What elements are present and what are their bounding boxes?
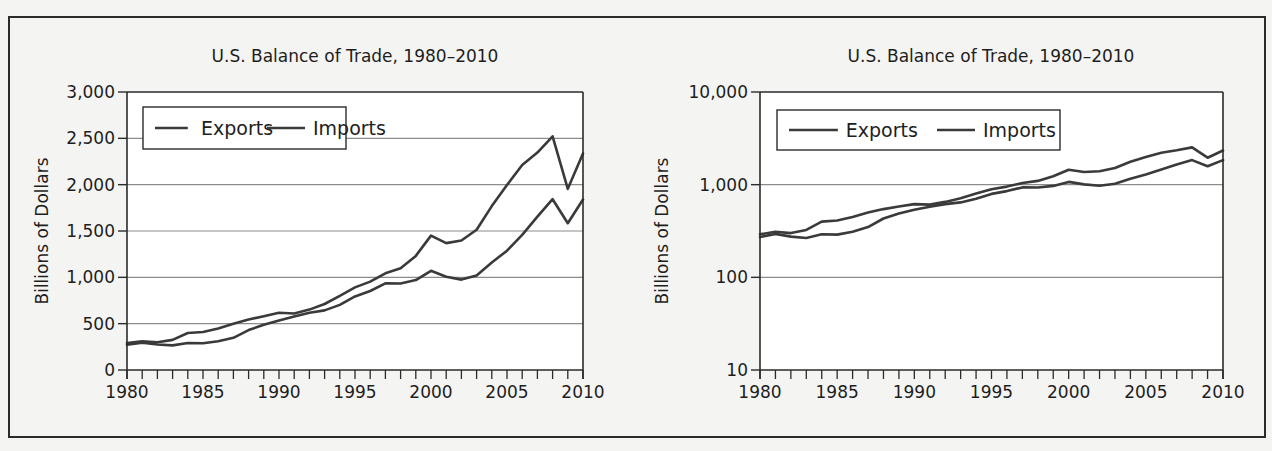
y-tick-labels: 101001,00010,000 xyxy=(689,82,748,380)
chart-title: U.S. Balance of Trade, 1980–2010 xyxy=(848,46,1135,66)
y-axis-title: Billions of Dollars xyxy=(32,157,52,304)
x-tick-label: 1995 xyxy=(970,382,1013,402)
legend-imports: Imports xyxy=(313,117,386,139)
x-tick-labels: 1980198519901995200020052010 xyxy=(738,382,1244,402)
x-tick-label: 2005 xyxy=(1124,382,1167,402)
chart-title: U.S. Balance of Trade, 1980–2010 xyxy=(212,46,499,66)
x-tick-label: 1990 xyxy=(893,382,936,402)
x-tick-label: 1995 xyxy=(333,382,376,402)
x-tick-label: 1980 xyxy=(738,382,781,402)
y-tick-labels: 05001,0001,5002,0002,5003,000 xyxy=(66,82,115,380)
charts-canvas: 05001,0001,5002,0002,5003,000 1980198519… xyxy=(0,0,1272,451)
legend-exports: Exports xyxy=(201,117,273,139)
x-tick-label: 1985 xyxy=(181,382,224,402)
x-tick-labels: 1980198519901995200020052010 xyxy=(105,382,604,402)
x-tick-label: 2005 xyxy=(485,382,528,402)
y-tick-label: 3,000 xyxy=(66,82,115,102)
x-tick-label: 2000 xyxy=(409,382,452,402)
y-tick-label: 1,000 xyxy=(66,267,115,287)
x-tick-label: 1990 xyxy=(257,382,300,402)
linear-scale-chart: 05001,0001,5002,0002,5003,000 1980198519… xyxy=(32,46,605,402)
y-tick-label: 2,000 xyxy=(66,175,115,195)
y-tick-label: 10 xyxy=(726,360,748,380)
y-tick-label: 1,000 xyxy=(699,175,748,195)
legend: Exports Imports xyxy=(777,110,1060,150)
x-tick-label: 1980 xyxy=(105,382,148,402)
x-tick-label: 1985 xyxy=(816,382,859,402)
x-tick-label: 2010 xyxy=(1201,382,1244,402)
x-tick-label: 2000 xyxy=(1047,382,1090,402)
y-tick-label: 100 xyxy=(716,267,748,287)
log-scale-chart: 101001,00010,000 19801985199019952000200… xyxy=(652,46,1245,402)
y-tick-label: 500 xyxy=(83,314,115,334)
x-tick-label: 2010 xyxy=(561,382,604,402)
legend-imports: Imports xyxy=(983,119,1056,141)
legend-exports: Exports xyxy=(846,119,918,141)
y-tick-label: 1,500 xyxy=(66,221,115,241)
y-tick-label: 10,000 xyxy=(689,82,748,102)
y-axis-title: Billions of Dollars xyxy=(652,157,672,304)
y-tick-label: 2,500 xyxy=(66,128,115,148)
y-tick-label: 0 xyxy=(104,360,115,380)
